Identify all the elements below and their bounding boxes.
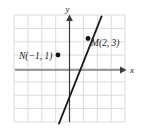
- x-axis-label: x: [129, 65, 134, 75]
- y-axis-label: y: [65, 4, 70, 14]
- x-axis-arrow-icon: [120, 67, 127, 74]
- x-axis: [15, 67, 127, 74]
- point-marker-m: [86, 36, 91, 41]
- coordinate-plane-svg: N(−1, 1) M(2, 3) y x: [0, 0, 144, 134]
- coordinate-plane-figure: N(−1, 1) M(2, 3) y x: [0, 0, 144, 134]
- point-label-m: M(2, 3): [90, 38, 120, 49]
- point-label-n: N(−1, 1): [18, 51, 52, 62]
- point-marker-n: [56, 53, 61, 58]
